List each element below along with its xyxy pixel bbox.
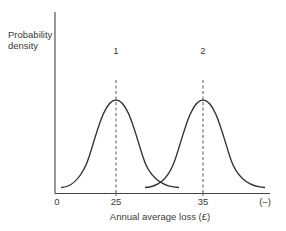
x-axis-label: Annual average loss (£) xyxy=(110,211,210,222)
distribution-curve-2 xyxy=(145,100,265,188)
x-tick-label-25: 25 xyxy=(111,196,122,207)
x-tick-label-end: (–) xyxy=(259,196,271,207)
x-tick-label-0: 0 xyxy=(54,196,59,207)
y-axis-label-line2: density xyxy=(8,40,52,51)
distribution-label-2: 2 xyxy=(200,45,205,56)
y-axis-label-line1: Probability xyxy=(8,29,52,40)
distribution-label-1: 1 xyxy=(113,45,118,56)
y-axis-label: Probability density xyxy=(8,29,52,51)
x-tick-label-35: 35 xyxy=(198,196,209,207)
distribution-curve-1 xyxy=(61,100,179,188)
